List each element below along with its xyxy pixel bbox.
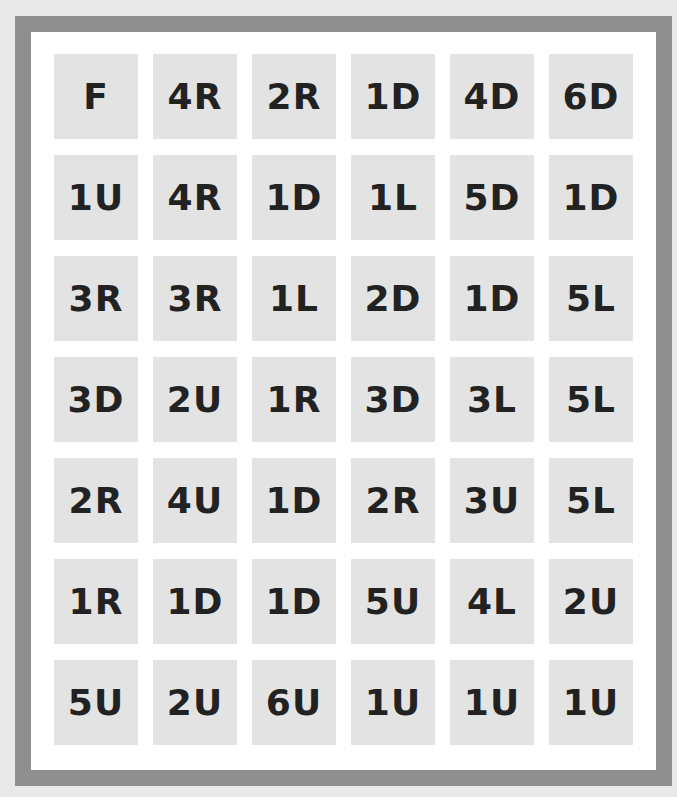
grid-cell-r1-c2[interactable]: 4R (153, 54, 237, 139)
grid-cell-r5-c4[interactable]: 2R (351, 458, 435, 543)
grid-cell-r1-c5[interactable]: 4D (450, 54, 534, 139)
grid-cell-r5-c3[interactable]: 1D (252, 458, 336, 543)
grid-cell-r4-c3[interactable]: 1R (252, 357, 336, 442)
grid-cell-r7-c6[interactable]: 1U (549, 660, 633, 745)
grid-cell-r5-c6[interactable]: 5L (549, 458, 633, 543)
puzzle-frame: F4R2R1D4D6D1U4R1D1L5D1D3R3R1L2D1D5L3D2U1… (15, 16, 672, 786)
grid-cell-r2-c3[interactable]: 1D (252, 155, 336, 240)
grid-cell-r1-c4[interactable]: 1D (351, 54, 435, 139)
grid-cell-r6-c6[interactable]: 2U (549, 559, 633, 644)
grid-cell-r2-c1[interactable]: 1U (54, 155, 138, 240)
grid-cell-r5-c5[interactable]: 3U (450, 458, 534, 543)
grid-cell-r7-c3[interactable]: 6U (252, 660, 336, 745)
grid-cell-r2-c5[interactable]: 5D (450, 155, 534, 240)
grid-cell-r3-c4[interactable]: 2D (351, 256, 435, 341)
grid-cell-r6-c5[interactable]: 4L (450, 559, 534, 644)
grid-cell-r6-c3[interactable]: 1D (252, 559, 336, 644)
grid-cell-r6-c2[interactable]: 1D (153, 559, 237, 644)
grid-cell-r1-c3[interactable]: 2R (252, 54, 336, 139)
grid-cell-r4-c1[interactable]: 3D (54, 357, 138, 442)
grid-cell-r4-c5[interactable]: 3L (450, 357, 534, 442)
grid-cell-r2-c4[interactable]: 1L (351, 155, 435, 240)
grid-cell-r1-c6[interactable]: 6D (549, 54, 633, 139)
grid-cell-r6-c4[interactable]: 5U (351, 559, 435, 644)
grid-cell-r2-c6[interactable]: 1D (549, 155, 633, 240)
grid-cell-r4-c2[interactable]: 2U (153, 357, 237, 442)
grid-cell-r5-c2[interactable]: 4U (153, 458, 237, 543)
grid-cell-r3-c2[interactable]: 3R (153, 256, 237, 341)
grid-cell-r3-c6[interactable]: 5L (549, 256, 633, 341)
grid-cell-r7-c1[interactable]: 5U (54, 660, 138, 745)
grid-cell-r2-c2[interactable]: 4R (153, 155, 237, 240)
grid-cell-r3-c5[interactable]: 1D (450, 256, 534, 341)
grid-cell-r7-c5[interactable]: 1U (450, 660, 534, 745)
grid-cell-r4-c4[interactable]: 3D (351, 357, 435, 442)
grid-cell-r7-c4[interactable]: 1U (351, 660, 435, 745)
grid-cell-r6-c1[interactable]: 1R (54, 559, 138, 644)
puzzle-grid: F4R2R1D4D6D1U4R1D1L5D1D3R3R1L2D1D5L3D2U1… (54, 54, 633, 745)
grid-cell-r3-c1[interactable]: 3R (54, 256, 138, 341)
grid-cell-r5-c1[interactable]: 2R (54, 458, 138, 543)
grid-cell-r3-c3[interactable]: 1L (252, 256, 336, 341)
grid-cell-r4-c6[interactable]: 5L (549, 357, 633, 442)
grid-cell-r1-c1[interactable]: F (54, 54, 138, 139)
grid-cell-r7-c2[interactable]: 2U (153, 660, 237, 745)
